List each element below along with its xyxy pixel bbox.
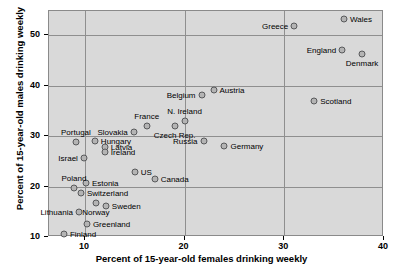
data-point-marker (130, 128, 137, 135)
y-tick-mark (44, 236, 48, 237)
x-tick-mark (383, 236, 384, 240)
data-point-marker (181, 117, 188, 124)
y-tick-label: 10 (18, 231, 40, 241)
x-tick-label: 10 (79, 241, 89, 251)
data-point-marker (70, 184, 77, 191)
x-tick-mark (84, 236, 85, 240)
data-point-marker (339, 47, 346, 54)
data-point-label: Greece (262, 22, 288, 31)
x-tick-label: 20 (179, 241, 189, 251)
data-point-label: Portugal (61, 128, 91, 137)
data-point-marker (291, 23, 298, 30)
data-point-marker (80, 154, 87, 161)
gridline-horizontal (49, 35, 382, 36)
y-axis-label: Percent of 15-year-old males drinking we… (14, 0, 25, 224)
gridline-horizontal (49, 136, 382, 137)
data-point-marker (83, 221, 90, 228)
data-point-label: Israel (58, 153, 78, 162)
data-point-marker (311, 97, 318, 104)
plot-area: GreeceWalesEnglandDenmarkScotlandAustria… (48, 10, 383, 236)
data-point-marker (72, 138, 79, 145)
data-point-label: Sweden (112, 202, 141, 211)
data-point-marker (221, 143, 228, 150)
data-point-marker (91, 138, 98, 145)
data-point-marker (151, 175, 158, 182)
data-point-label: Slovakia (97, 127, 127, 136)
gridline-vertical (284, 11, 285, 235)
y-tick-mark (44, 135, 48, 136)
data-point-label: Denmark (346, 59, 378, 68)
data-point-marker (171, 122, 178, 129)
data-point-label: France (134, 112, 159, 121)
data-point-label: Lithuania (40, 208, 72, 217)
data-point-label: Austria (220, 85, 245, 94)
x-tick-label: 40 (378, 241, 388, 251)
data-point-marker (92, 200, 99, 207)
data-point-marker (131, 169, 138, 176)
data-point-marker (198, 92, 205, 99)
y-tick-mark (44, 186, 48, 187)
scatter-plot-figure: GreeceWalesEnglandDenmarkScotlandAustria… (0, 0, 403, 266)
data-point-marker (341, 16, 348, 23)
data-point-marker (101, 148, 108, 155)
data-point-marker (60, 230, 67, 237)
data-point-label: N. Ireland (167, 107, 202, 116)
data-point-label: Greenland (93, 220, 130, 229)
data-point-marker (143, 123, 150, 130)
x-axis-label: Percent of 15-year-old females drinking … (0, 253, 403, 264)
data-point-marker (210, 86, 217, 93)
data-point-marker (359, 51, 366, 58)
x-tick-mark (283, 236, 284, 240)
data-point-label: England (307, 46, 336, 55)
data-point-label: US (141, 168, 152, 177)
data-point-label: Estonia (92, 179, 119, 188)
data-point-label: Norway (82, 208, 109, 217)
y-tick-mark (44, 34, 48, 35)
data-point-label: Scotland (320, 96, 351, 105)
data-point-label: Belgium (167, 91, 196, 100)
data-point-label: Poland (61, 174, 86, 183)
data-point-label: Germany (230, 142, 263, 151)
data-point-label: Wales (350, 15, 372, 24)
y-tick-mark (44, 85, 48, 86)
gridline-vertical (85, 11, 86, 235)
x-tick-mark (184, 236, 185, 240)
data-point-label: Ireland (111, 147, 135, 156)
data-point-marker (77, 190, 84, 197)
x-tick-label: 30 (278, 241, 288, 251)
data-point-label: Canada (161, 174, 189, 183)
data-point-label: Russia (173, 137, 197, 146)
data-point-label: Switzerland (87, 189, 128, 198)
data-point-marker (200, 138, 207, 145)
